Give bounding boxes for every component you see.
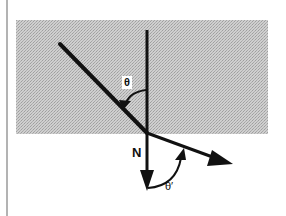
diagram-canvas: θ N θ′ — [0, 0, 286, 216]
theta-prime-arc-arrow-icon — [175, 148, 186, 160]
diagram-svg — [0, 0, 286, 216]
normal-label: N — [132, 146, 141, 159]
refracted-angle-label: θ′ — [165, 181, 173, 192]
medium-region — [16, 20, 268, 134]
incident-angle-label: θ — [122, 76, 132, 89]
refracted-arrow-icon — [207, 150, 233, 166]
